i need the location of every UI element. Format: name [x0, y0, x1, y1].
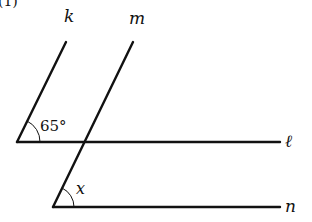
angle-label-65: 65° — [40, 117, 67, 135]
angle-label-x: x — [76, 179, 85, 198]
problem-label: (1) — [0, 0, 18, 9]
parallel-lines-diagram: (1) k m ℓ n 65° x — [0, 0, 312, 222]
label-k: k — [64, 6, 74, 26]
angle-arc-65 — [27, 121, 40, 142]
label-l: ℓ — [285, 131, 292, 151]
label-m: m — [129, 8, 145, 28]
angle-arc-x — [62, 188, 74, 207]
label-n: n — [285, 196, 296, 216]
